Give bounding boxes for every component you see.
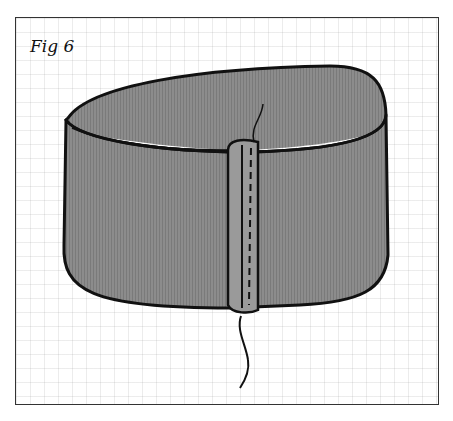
band-illustration bbox=[0, 0, 453, 421]
thread-bottom bbox=[240, 316, 249, 388]
band-top-surface bbox=[68, 66, 386, 150]
